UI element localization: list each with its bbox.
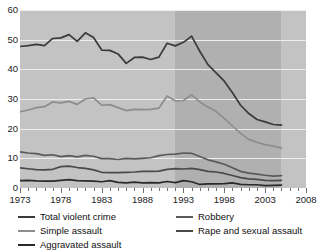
x-axis-tick-minor [151, 188, 152, 191]
x-axis-tick-major [20, 188, 21, 193]
series-lines [20, 10, 306, 188]
x-axis-tick-minor [110, 188, 111, 191]
legend-item[interactable]: Aggravated assault [18, 238, 121, 250]
y-axis-label: 30 [1, 94, 18, 103]
x-axis-tick-minor [77, 188, 78, 191]
x-axis-label: 1978 [41, 194, 81, 205]
x-axis-tick-minor [53, 188, 54, 191]
x-axis-tick-minor [69, 188, 70, 191]
x-axis-tick-minor [241, 188, 242, 191]
x-axis-tick-minor [298, 188, 299, 191]
legend-label: Total violent crime [40, 211, 116, 222]
legend-swatch [18, 230, 35, 232]
y-axis-label: 40 [1, 64, 18, 73]
x-axis-tick-minor [216, 188, 217, 191]
x-axis-tick-minor [45, 188, 46, 191]
x-axis-tick-major [61, 188, 62, 193]
chart-figure: 0102030405060 19731978198319881993199820… [0, 0, 321, 250]
x-axis-tick-minor [94, 188, 95, 191]
x-axis-label: 2008 [286, 194, 321, 205]
x-axis-labels: 19731978198319881993199820032008 [0, 194, 321, 206]
x-axis-tick-minor [290, 188, 291, 191]
x-axis-tick-minor [192, 188, 193, 191]
series-line-simple-assault [20, 95, 281, 148]
y-axis-label: 0 [1, 183, 18, 192]
x-axis-tick-major [102, 188, 103, 193]
y-axis-label: 50 [1, 35, 18, 44]
x-axis-tick-minor [28, 188, 29, 191]
x-axis-tick-minor [208, 188, 209, 191]
series-line-total-violent-crime [20, 33, 281, 125]
y-axis: 0102030405060 [0, 10, 18, 188]
x-axis-tick-minor [273, 188, 274, 191]
series-line-aggravated-assault [20, 180, 281, 186]
legend-swatch [176, 216, 193, 218]
y-axis-label: 60 [1, 5, 18, 14]
legend-label: Robbery [198, 211, 234, 222]
x-axis-label: 1988 [123, 194, 163, 205]
x-axis-label: 1998 [204, 194, 244, 205]
x-axis-tick-minor [232, 188, 233, 191]
x-axis-tick-minor [134, 188, 135, 191]
legend-item[interactable]: Robbery [176, 210, 234, 223]
x-axis-tick-minor [167, 188, 168, 191]
x-axis-tick-minor [36, 188, 37, 191]
plot-area-wrapper: 0102030405060 19731978198319881993199820… [0, 0, 321, 206]
x-axis-tick-major [306, 188, 307, 193]
x-axis-tick-major [265, 188, 266, 193]
legend-label: Aggravated assault [40, 239, 121, 250]
x-axis-tick-minor [249, 188, 250, 191]
plot-area [20, 10, 306, 188]
legend-item[interactable]: Rape and sexual assault [176, 224, 302, 237]
x-axis-tick-minor [281, 188, 282, 191]
x-axis-tick-minor [175, 188, 176, 191]
x-axis-tick-major [224, 188, 225, 193]
chart-legend: Total violent crimeRobberySimple assault… [0, 208, 321, 250]
x-axis-tick-major [143, 188, 144, 193]
legend-swatch [176, 230, 193, 232]
legend-label: Rape and sexual assault [198, 225, 302, 236]
x-axis-label: 1983 [82, 194, 122, 205]
x-axis-tick-major [183, 188, 184, 193]
x-axis-tick-minor [126, 188, 127, 191]
x-axis-label: 2003 [245, 194, 285, 205]
x-axis-tick-minor [85, 188, 86, 191]
series-line-robbery [20, 152, 281, 176]
y-axis-label: 10 [1, 153, 18, 162]
x-axis-tick-minor [200, 188, 201, 191]
series-line-rape-and-sexual-assault [20, 166, 281, 181]
x-axis-label: 1973 [0, 194, 40, 205]
legend-swatch [18, 244, 35, 246]
y-axis-label: 20 [1, 124, 18, 133]
legend-item[interactable]: Total violent crime [18, 210, 116, 223]
x-axis-tick-minor [159, 188, 160, 191]
legend-item[interactable]: Simple assault [18, 224, 102, 237]
x-axis-label: 1993 [163, 194, 203, 205]
legend-swatch [18, 216, 35, 218]
legend-label: Simple assault [40, 225, 102, 236]
x-axis-tick-minor [118, 188, 119, 191]
x-axis-tick-minor [257, 188, 258, 191]
